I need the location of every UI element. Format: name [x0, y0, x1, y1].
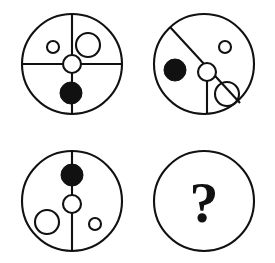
- hub-circle: [198, 63, 216, 81]
- filled-circle: [60, 82, 82, 104]
- panel-bottom-left[interactable]: [22, 151, 122, 251]
- puzzle-container: ?: [0, 0, 275, 263]
- small-open-circle: [89, 218, 101, 230]
- panel-bottom-right-answer[interactable]: ?: [154, 151, 254, 251]
- large-open-circle: [76, 33, 100, 57]
- hub-circle: [63, 55, 81, 73]
- filled-circle: [61, 164, 83, 186]
- hub-circle: [63, 195, 81, 213]
- small-open-circle: [47, 41, 59, 53]
- question-mark-label: ?: [190, 170, 219, 235]
- filled-circle: [164, 59, 186, 81]
- large-open-circle: [35, 210, 59, 234]
- small-open-circle: [219, 41, 231, 53]
- panel-top-right[interactable]: [154, 14, 254, 114]
- puzzle-figure: ?: [0, 0, 275, 263]
- panel-top-left[interactable]: [22, 14, 122, 114]
